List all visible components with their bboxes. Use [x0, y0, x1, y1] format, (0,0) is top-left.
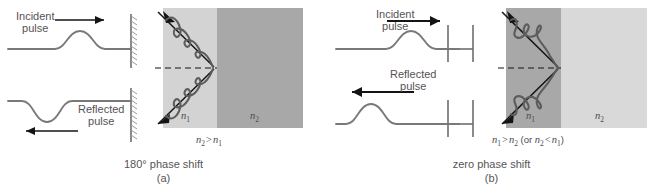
medium-region-n2: [217, 8, 303, 128]
panel-a-caption-main: 180° phase shift: [0, 158, 327, 170]
refractive-index-relation: n1>n2 (or n2<n1): [492, 134, 564, 148]
medium-region-n2: [561, 8, 647, 128]
panel-b: Incident pulse Reflected pulse n1 n2 n1>…: [328, 0, 655, 195]
panel-b-caption-sub: (b): [328, 172, 655, 184]
medium-label-n1: n1: [181, 110, 190, 124]
medium-label-n1: n1: [526, 110, 535, 124]
incident-pulse-rope: [336, 31, 459, 49]
medium-label-n2: n2: [595, 110, 604, 124]
reflected-direction-arrowhead: [26, 127, 35, 135]
refractive-index-relation: n2>n1: [196, 134, 222, 148]
incident-pulse-label: Incident pulse: [16, 10, 55, 35]
reflected-direction-arrowhead: [352, 87, 362, 97]
reflected-pulse-label: Reflected pulse: [78, 103, 124, 128]
panel-a-caption-sub: (a): [0, 172, 327, 184]
panel-b-caption-main: zero phase shift: [328, 158, 655, 170]
reflected-pulse-label: Reflected pulse: [390, 68, 436, 93]
incident-pulse-label: Incident pulse: [376, 8, 415, 33]
free-end-bracket-icon-top: [448, 25, 473, 62]
figure-reflection-phase-shift: Incident pulse Reflected pulse n1 n2 n2>…: [0, 0, 655, 195]
incident-direction-arrowhead: [95, 16, 104, 24]
incident-direction-arrowhead: [430, 16, 440, 26]
reflected-pulse-rope: [336, 104, 459, 124]
hatched-wall-icon-top: [131, 16, 137, 65]
hatched-wall-icon-bottom: [131, 90, 137, 139]
medium-label-n2: n2: [250, 110, 259, 124]
panel-a: Incident pulse Reflected pulse n1 n2 n2>…: [0, 0, 327, 195]
free-end-bracket-icon-bottom: [448, 100, 473, 137]
